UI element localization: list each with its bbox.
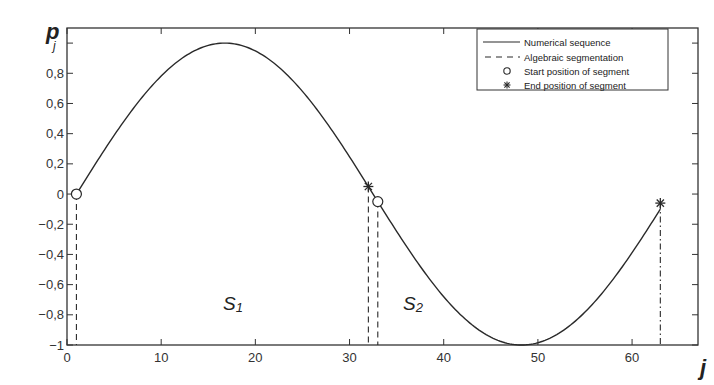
x-axis-label: j (697, 355, 707, 380)
svg-text:Numerical sequence: Numerical sequence (524, 37, 611, 48)
segmentation-lines (76, 187, 660, 346)
segmentation-chart: 0102030405060 −1−0,8−0,6−0,4−0,200,20,40… (0, 0, 714, 385)
svg-text:Start position of segment: Start position of segment (524, 66, 629, 77)
y-tick-label: −0,8 (38, 307, 64, 322)
start-circle-marker (373, 197, 383, 207)
asterisk-marker-icon (504, 82, 511, 89)
y-tick-label: −1 (49, 338, 64, 353)
x-tick-label: 40 (436, 350, 450, 365)
y-tick-label: 0,6 (46, 96, 64, 111)
svg-text:Algebraic segmentation: Algebraic segmentation (524, 52, 623, 63)
y-tick-label: 0,2 (46, 156, 64, 171)
x-tick-label: 50 (531, 350, 545, 365)
y-tick-label: −0,2 (38, 217, 64, 232)
y-tick-label: 0,8 (46, 66, 64, 81)
start-circle-marker (71, 189, 81, 199)
x-tick-label: 30 (342, 350, 356, 365)
x-tick-label: 60 (625, 350, 639, 365)
y-tick-label: 0,4 (46, 126, 64, 141)
svg-text:End position of segment: End position of segment (524, 80, 626, 91)
legend: Numerical sequence Algebraic segmentatio… (477, 29, 668, 91)
y-tick-label: 0 (57, 187, 64, 202)
segment-1-label: S1 (223, 293, 243, 315)
y-tick-label: −0,4 (38, 247, 64, 262)
x-tick-label: 20 (248, 350, 262, 365)
x-tick-label: 10 (154, 350, 168, 365)
x-tick-label: 0 (63, 350, 70, 365)
segment-markers (71, 182, 665, 209)
y-tick-label: −0,6 (38, 277, 64, 292)
segment-2-label: S2 (403, 293, 424, 315)
end-asterisk-marker (655, 198, 665, 208)
end-asterisk-marker (363, 182, 373, 192)
